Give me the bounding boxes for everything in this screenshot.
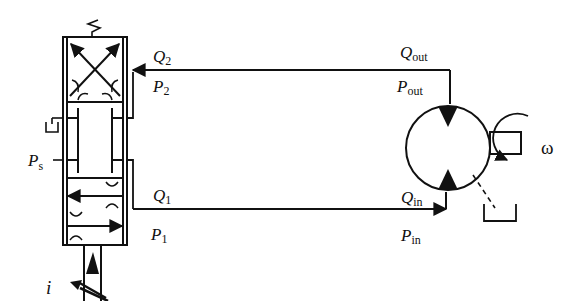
label-ps: Ps xyxy=(27,151,43,173)
label-qout: Qout xyxy=(400,43,428,64)
valve-solenoid-stem xyxy=(70,246,108,301)
motor-outlet-triangle-icon xyxy=(438,106,458,127)
valve-top-cross-arrows xyxy=(70,44,120,100)
line-port-1 xyxy=(127,160,446,209)
label-q1: Q1 xyxy=(153,186,171,207)
motor-inlet-triangle-icon xyxy=(438,169,458,190)
hydraulic-motor xyxy=(406,106,528,221)
label-omega: ω xyxy=(541,137,554,158)
servo-valve xyxy=(46,20,127,301)
valve-bottom-parallel-arrows xyxy=(68,182,122,240)
label-pout: Pout xyxy=(396,77,423,98)
label-p1: P1 xyxy=(150,225,167,246)
hydraulic-circuit-diagram: Q2 P2 Q1 P1 Ps Qout Pout Qin Pin ω i xyxy=(0,0,586,301)
label-current: i xyxy=(46,277,51,298)
valve-middle-closed-ports xyxy=(67,108,123,173)
tank-return-icon xyxy=(46,118,63,132)
spring-icon xyxy=(88,20,100,36)
label-qin: Qin xyxy=(401,188,423,209)
label-pin: Pin xyxy=(400,226,421,247)
motor-shaft xyxy=(490,132,521,154)
label-p2: P2 xyxy=(152,77,169,98)
label-q2: Q2 xyxy=(153,47,171,68)
drain-tank-icon xyxy=(484,204,516,221)
